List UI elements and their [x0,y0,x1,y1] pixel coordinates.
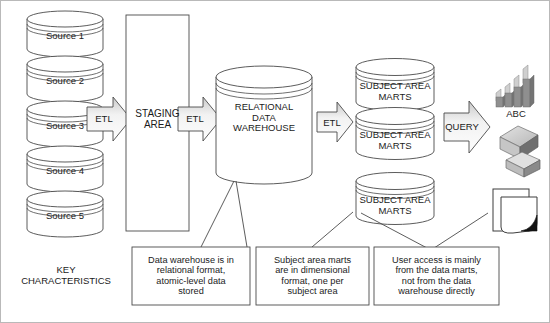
source-cylinder-4[interactable] [27,146,103,192]
note-box-2[interactable] [256,247,369,305]
source-cylinder-2[interactable] [27,56,103,102]
query-arrow-marts-to-tools[interactable] [444,101,490,153]
note-box-1[interactable] [132,247,250,305]
diagram-svg [1,1,550,323]
source-cylinder-1[interactable] [27,11,103,57]
note-box-3[interactable] [374,247,499,305]
callout-pointer-lines [201,181,488,250]
report-document-icon [493,189,537,233]
subject-area-mart-2[interactable] [356,108,434,160]
bar-chart-icon [496,65,534,107]
source-cylinder-5[interactable] [27,191,103,237]
etl-arrow-warehouse-to-marts[interactable] [317,102,353,142]
diagram-canvas: Source 1 Source 2 Source 3 Source 4 Sour… [0,0,550,323]
relational-data-warehouse-cylinder[interactable] [216,66,312,184]
subject-area-mart-1[interactable] [356,59,434,111]
olap-cube-icon [500,126,540,177]
